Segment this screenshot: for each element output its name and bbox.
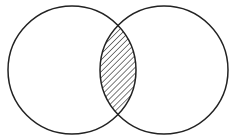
venn-diagram <box>0 0 241 137</box>
